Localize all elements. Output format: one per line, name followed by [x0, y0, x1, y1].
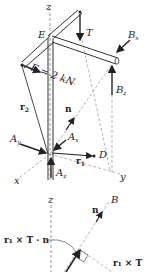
x-axis-label: x	[14, 175, 20, 186]
Ax-label: Ax	[67, 131, 79, 143]
statics-diagram: z T E Bx Bz F = 2 kN	[0, 0, 149, 272]
Ay-arrow	[20, 144, 46, 153]
r1xTn-label: r₁ × T · n	[4, 235, 50, 245]
r2-label: r2	[20, 102, 29, 113]
Bx-label: Bx	[127, 29, 139, 41]
bottom-n-label: n	[92, 205, 99, 215]
r1-label: r1	[76, 156, 85, 167]
z-axis-label: z	[45, 1, 52, 12]
top-diagram: z T E Bx Bz F = 2 kN	[9, 1, 139, 186]
r1xT-label: r₁ × T	[113, 258, 142, 268]
D-label: D	[98, 149, 107, 160]
projection-arrow	[66, 250, 80, 272]
Az-label: Az	[55, 167, 67, 179]
B-label: B	[110, 194, 118, 205]
bottom-z-label: z	[47, 194, 54, 205]
r1-vector	[52, 153, 92, 156]
n-arrow	[66, 118, 74, 130]
bottom-diagram: z B n r₁ × T · n r₁ × T	[4, 194, 142, 272]
Ay-label: Ay	[9, 133, 21, 146]
T-label: T	[86, 27, 94, 38]
y-axis-label: y	[119, 171, 126, 182]
Bz-label: Bz	[115, 84, 127, 96]
n-label: n	[65, 104, 72, 114]
Ax-arrow	[54, 140, 66, 150]
Bx-arrow	[117, 40, 130, 52]
E-label: E	[37, 29, 46, 40]
